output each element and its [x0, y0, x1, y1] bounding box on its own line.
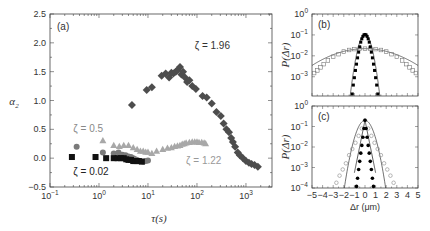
filled-circle-marker [359, 151, 363, 155]
open-circle-marker [335, 181, 339, 185]
filled-square-marker [358, 45, 361, 48]
filled-square-marker [355, 63, 358, 66]
open-circle-marker [341, 168, 345, 172]
y-tick-label: 0.0 [33, 153, 46, 163]
y-tick-label: 10−3 [291, 161, 309, 173]
filled-circle-marker [361, 135, 365, 139]
filled-square-marker [375, 84, 378, 87]
y-tick-label: 2.0 [33, 38, 46, 48]
square-marker [69, 154, 75, 160]
panel-c-plot: 10010−110−210−310−4−5−4−3−2−1012345Δr (μ… [279, 99, 421, 231]
open-circle-marker [373, 141, 377, 145]
filled-circle-marker [358, 160, 362, 164]
y-tick-label: 100 [294, 99, 308, 111]
x-tick-label: 4 [405, 190, 410, 200]
filled-circle-marker [363, 119, 367, 123]
filled-square-marker [372, 63, 375, 66]
filled-square-marker [356, 56, 359, 59]
x-tick-label: 3 [394, 190, 399, 200]
x-tick-label: 1 [373, 190, 378, 200]
x-tick-label: −1 [349, 190, 359, 200]
filled-square-marker [351, 92, 354, 95]
circle-marker [100, 149, 106, 155]
x-tick-label: 100 [92, 189, 106, 201]
open-circle-marker [385, 168, 389, 172]
square-marker [93, 154, 99, 160]
filled-circle-marker [355, 185, 359, 189]
x-tick-label: 101 [141, 189, 155, 201]
panel-a-plot: 10−1100101102103−0.50.00.51.01.52.02.5α2… [9, 9, 272, 225]
y-tick-label: 10−1 [291, 120, 309, 132]
diamond-marker [128, 101, 136, 109]
x-axis-label: τ(s) [151, 212, 167, 225]
x-tick-label: 5 [415, 190, 420, 200]
open-circle-marker [389, 174, 393, 178]
filled-circle-marker [369, 160, 373, 164]
open-circle-marker [392, 181, 396, 185]
open-circle-marker [354, 141, 358, 145]
x-tick-label: 103 [239, 189, 253, 201]
filled-circle-marker [370, 168, 374, 172]
x-axis-label: Δr (μm) [350, 202, 380, 212]
filled-square-marker [369, 45, 372, 48]
filled-circle-marker [360, 144, 364, 148]
panel-label: (b) [318, 19, 330, 30]
y-tick-label: 10−3 [291, 70, 309, 82]
filled-square-marker [357, 51, 360, 54]
filled-square-marker [367, 37, 370, 40]
x-tick-label: −5 [307, 190, 317, 200]
circle-marker [74, 144, 80, 150]
filled-circle-marker [367, 151, 371, 155]
open-circle-marker [338, 174, 342, 178]
filled-square-marker [368, 41, 371, 44]
open-circle-marker [382, 162, 386, 166]
filled-circle-marker [372, 185, 376, 189]
series-annotation: ζ = 0.02 [73, 166, 109, 178]
series-annotation: ζ = 1.22 [186, 155, 222, 167]
open-circle-marker [350, 147, 354, 151]
panel-label: (a) [57, 21, 69, 32]
filled-square-marker [371, 56, 374, 59]
y-axis-label: P(Δr) [279, 134, 292, 160]
square-marker [139, 159, 145, 165]
series-annotation: ζ = 1.96 [195, 40, 231, 52]
filled-square-marker [352, 84, 355, 87]
filled-circle-marker [371, 176, 375, 180]
open-circle-marker [344, 162, 348, 166]
y-tick-label: 100 [294, 7, 308, 19]
triangle-marker [153, 147, 160, 153]
filled-circle-marker [364, 127, 368, 131]
triangle-marker [99, 137, 106, 143]
filled-square-marker [376, 92, 379, 95]
y-tick-label: 2.5 [33, 9, 46, 19]
figure: 10−1100101102103−0.50.00.51.01.52.02.5α2… [0, 0, 430, 231]
open-square-marker [400, 59, 404, 63]
y-tick-label: 10−4 [291, 181, 309, 193]
series-annotation: ζ = 0.5 [73, 123, 103, 135]
open-circle-marker [357, 134, 361, 138]
diamond-marker [208, 99, 216, 107]
x-tick-label: −4 [317, 190, 327, 200]
open-circle-marker [376, 147, 380, 151]
filled-square-marker [359, 41, 362, 44]
x-tick-label: −3 [328, 190, 338, 200]
y-tick-label: 0.5 [33, 124, 46, 134]
filled-square-marker [354, 69, 357, 72]
y-tick-label: 10−2 [291, 140, 309, 152]
x-tick-label: 0 [362, 190, 367, 200]
filled-circle-marker [356, 176, 360, 180]
y-axis-label: P(Δr) [279, 42, 292, 68]
filled-circle-marker [366, 144, 370, 148]
plot-frame [50, 14, 272, 187]
open-circle-marker [370, 134, 374, 138]
x-tick-label: −2 [339, 190, 349, 200]
y-tick-label: −0.5 [28, 182, 46, 192]
circle-marker [145, 157, 151, 163]
y-tick-label: 10−2 [291, 49, 309, 61]
panel-label: (c) [318, 111, 330, 122]
x-tick-label: 2 [384, 190, 389, 200]
filled-circle-marker [365, 135, 369, 139]
y-axis-label: α2 [9, 95, 19, 110]
y-tick-label: 1.0 [33, 96, 46, 106]
filled-square-marker [370, 51, 373, 54]
